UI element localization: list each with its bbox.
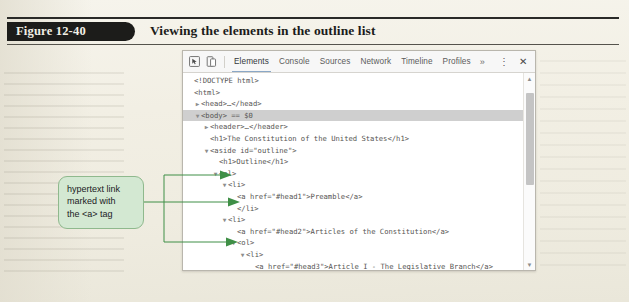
callout-leader-lines	[140, 166, 260, 246]
dom-tree-row-text: <header>…</header>	[210, 122, 288, 131]
devtools-toolbar-right: ⋮ ✕	[493, 57, 531, 67]
dom-tree-row[interactable]: ▼<aside id="outline">	[183, 145, 524, 157]
dom-tree-row-text: <head>…</head>	[201, 99, 262, 108]
figure-title: Viewing the elements in the outline list	[150, 23, 375, 39]
scrollbar-thumb[interactable]	[526, 93, 534, 185]
dom-tree-row[interactable]: ▶<head>…</head>	[183, 98, 524, 110]
twisty-spacer: ·	[248, 261, 255, 271]
callout-line-2: marked with	[67, 195, 136, 207]
tab-timeline[interactable]: Timeline	[396, 51, 437, 72]
dom-tree-row-text: <aside id="outline">	[210, 146, 297, 155]
toolbar-divider	[224, 56, 225, 68]
twisty-expanded-icon[interactable]: ▼	[194, 110, 201, 122]
tab-console[interactable]: Console	[274, 51, 315, 72]
dom-tree-row-text: <h1>Outline</h1>	[219, 157, 288, 166]
twisty-spacer: ·	[187, 75, 194, 87]
dom-tree-row[interactable]: ▼<body> == $0	[183, 110, 524, 122]
devtools-tab-strip: Elements Console Sources Network Timelin…	[229, 51, 493, 72]
dom-tree-row[interactable]: ·<h1>The Constitution of the United Stat…	[183, 133, 524, 145]
dom-tree-row[interactable]: ·<html>	[183, 87, 524, 99]
devtools-toolbar: Elements Console Sources Network Timelin…	[183, 51, 535, 73]
dom-tree-row[interactable]: ·<a href="#head3">Article I - The Legisl…	[183, 261, 524, 271]
dom-tree-scrollbar[interactable]: ▲ ▼	[523, 73, 535, 270]
scroll-down-arrow-icon[interactable]: ▼	[524, 259, 535, 270]
tab-sources[interactable]: Sources	[315, 51, 356, 72]
bleedthrough-text-left	[4, 72, 124, 272]
bleedthrough-text-right	[540, 60, 626, 270]
dom-tree-row-text: <a href="#head3">Article I - The Legisla…	[255, 262, 493, 271]
twisty-expanded-icon[interactable]: ▼	[203, 145, 210, 157]
dom-tree-row-text: <html>	[194, 88, 220, 97]
dom-tree-row[interactable]: ▼<li>	[183, 249, 524, 261]
dom-tree-row[interactable]: ▶<header>…</header>	[183, 121, 524, 133]
twisty-spacer: ·	[187, 87, 194, 99]
device-toolbar-icon[interactable]	[203, 51, 220, 72]
dom-tree-row[interactable]: ·<!DOCTYPE html>	[183, 75, 524, 87]
figure-rule-top	[7, 17, 619, 19]
twisty-expanded-icon[interactable]: ▼	[239, 249, 246, 261]
tab-profiles[interactable]: Profiles	[438, 51, 476, 72]
close-icon[interactable]: ✕	[515, 57, 531, 67]
twisty-collapsed-icon[interactable]: ▶	[203, 121, 210, 133]
dom-tree-row-text: <li>	[246, 250, 263, 259]
callout-line-1: hypertext link	[67, 183, 136, 195]
callout-line-3: the <a> tag	[67, 208, 136, 220]
kebab-menu-icon[interactable]: ⋮	[493, 57, 515, 67]
dom-tree-row-text: <body> == $0	[201, 111, 253, 120]
inspect-element-icon[interactable]	[186, 51, 203, 72]
dom-tree-row-text: <h1>The Constitution of the United State…	[210, 134, 409, 143]
tab-network[interactable]: Network	[355, 51, 396, 72]
scroll-up-arrow-icon[interactable]: ▲	[524, 73, 535, 84]
more-tabs-chevron-icon[interactable]: »	[476, 51, 489, 72]
dom-tree-row-text: <a href="#head2">Articles of the Constit…	[237, 227, 449, 236]
annotation-callout: hypertext link marked with the <a> tag	[58, 176, 144, 229]
figure-number-label: Figure 12-40	[16, 24, 86, 39]
dom-tree-row-text: <!DOCTYPE html>	[194, 76, 259, 85]
tab-elements[interactable]: Elements	[229, 51, 274, 72]
twisty-collapsed-icon[interactable]: ▶	[194, 98, 201, 110]
figure-rule-bottom	[7, 44, 619, 45]
twisty-spacer: ·	[203, 133, 210, 145]
